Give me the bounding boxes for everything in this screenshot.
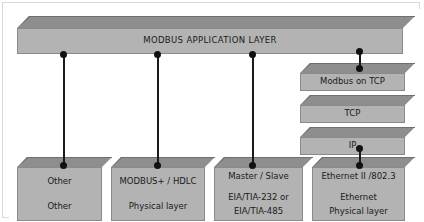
connector-dot-ip-ethernet-top	[356, 145, 363, 152]
ethernet-front-face: Ethernet II /802.3 Ethernet Physical lay…	[312, 167, 405, 221]
diagram-canvas: MODBUS APPLICATION LAYER Modbus on TCP T…	[0, 0, 424, 222]
connector-dot-app-serial-top	[249, 51, 256, 58]
connector-dot-app-serial-bottom	[249, 162, 256, 169]
serial-front-face: Master / Slave EIA/TIA-232 or EIA/TIA-48…	[214, 167, 303, 221]
serial-line-1: Master / Slave	[228, 170, 289, 183]
block-modbus-plus-hdlc: MODBUS+ / HDLC Physical layer	[111, 157, 215, 221]
connector-dot-app-modbusplus-top	[154, 51, 161, 58]
ethernet-line-3: Physical layer	[329, 205, 388, 218]
connector-dot-app-other-top	[60, 51, 67, 58]
serial-line-3: EIA/TIA-485	[234, 205, 283, 218]
modbus-on-tcp-front-face: Modbus on TCP	[300, 73, 405, 91]
modbus-plus-line-2: Physical layer	[129, 200, 188, 213]
modbus-on-tcp-label: Modbus on TCP	[320, 75, 385, 88]
ip-front-face: IP	[300, 137, 405, 155]
other-line-1: Other	[47, 175, 71, 188]
connector-dot-app-modbusplus-bottom	[154, 162, 161, 169]
block-modbus-application-layer: MODBUS APPLICATION LAYER	[17, 16, 415, 54]
other-front-face: Other Other	[17, 167, 102, 221]
tcp-label: TCP	[345, 107, 361, 120]
other-line-2: Other	[47, 200, 71, 213]
ethernet-line-1: Ethernet II /802.3	[321, 170, 395, 183]
block-ethernet: Ethernet II /802.3 Ethernet Physical lay…	[312, 157, 415, 221]
application-layer-label: MODBUS APPLICATION LAYER	[143, 34, 277, 47]
diagram-frame: MODBUS APPLICATION LAYER Modbus on TCP T…	[2, 2, 420, 218]
connector-dot-ip-ethernet-bottom	[356, 162, 363, 169]
connector-dot-app-tcp-top	[356, 48, 363, 55]
block-serial-master-slave: Master / Slave EIA/TIA-232 or EIA/TIA-48…	[214, 157, 313, 221]
ethernet-line-2: Ethernet	[340, 191, 377, 204]
serial-line-2: EIA/TIA-232 or	[228, 191, 289, 204]
block-tcp: TCP	[300, 95, 415, 123]
ip-label: IP	[349, 139, 357, 152]
application-layer-front-face: MODBUS APPLICATION LAYER	[17, 28, 403, 54]
modbus-plus-line-1: MODBUS+ / HDLC	[119, 175, 196, 188]
diagram-inner-area: MODBUS APPLICATION LAYER Modbus on TCP T…	[9, 9, 421, 221]
connector-dot-app-tcp-bottom	[356, 65, 363, 72]
modbus-plus-front-face: MODBUS+ / HDLC Physical layer	[111, 167, 205, 221]
connector-dot-app-other-bottom	[60, 162, 67, 169]
tcp-front-face: TCP	[300, 105, 405, 123]
